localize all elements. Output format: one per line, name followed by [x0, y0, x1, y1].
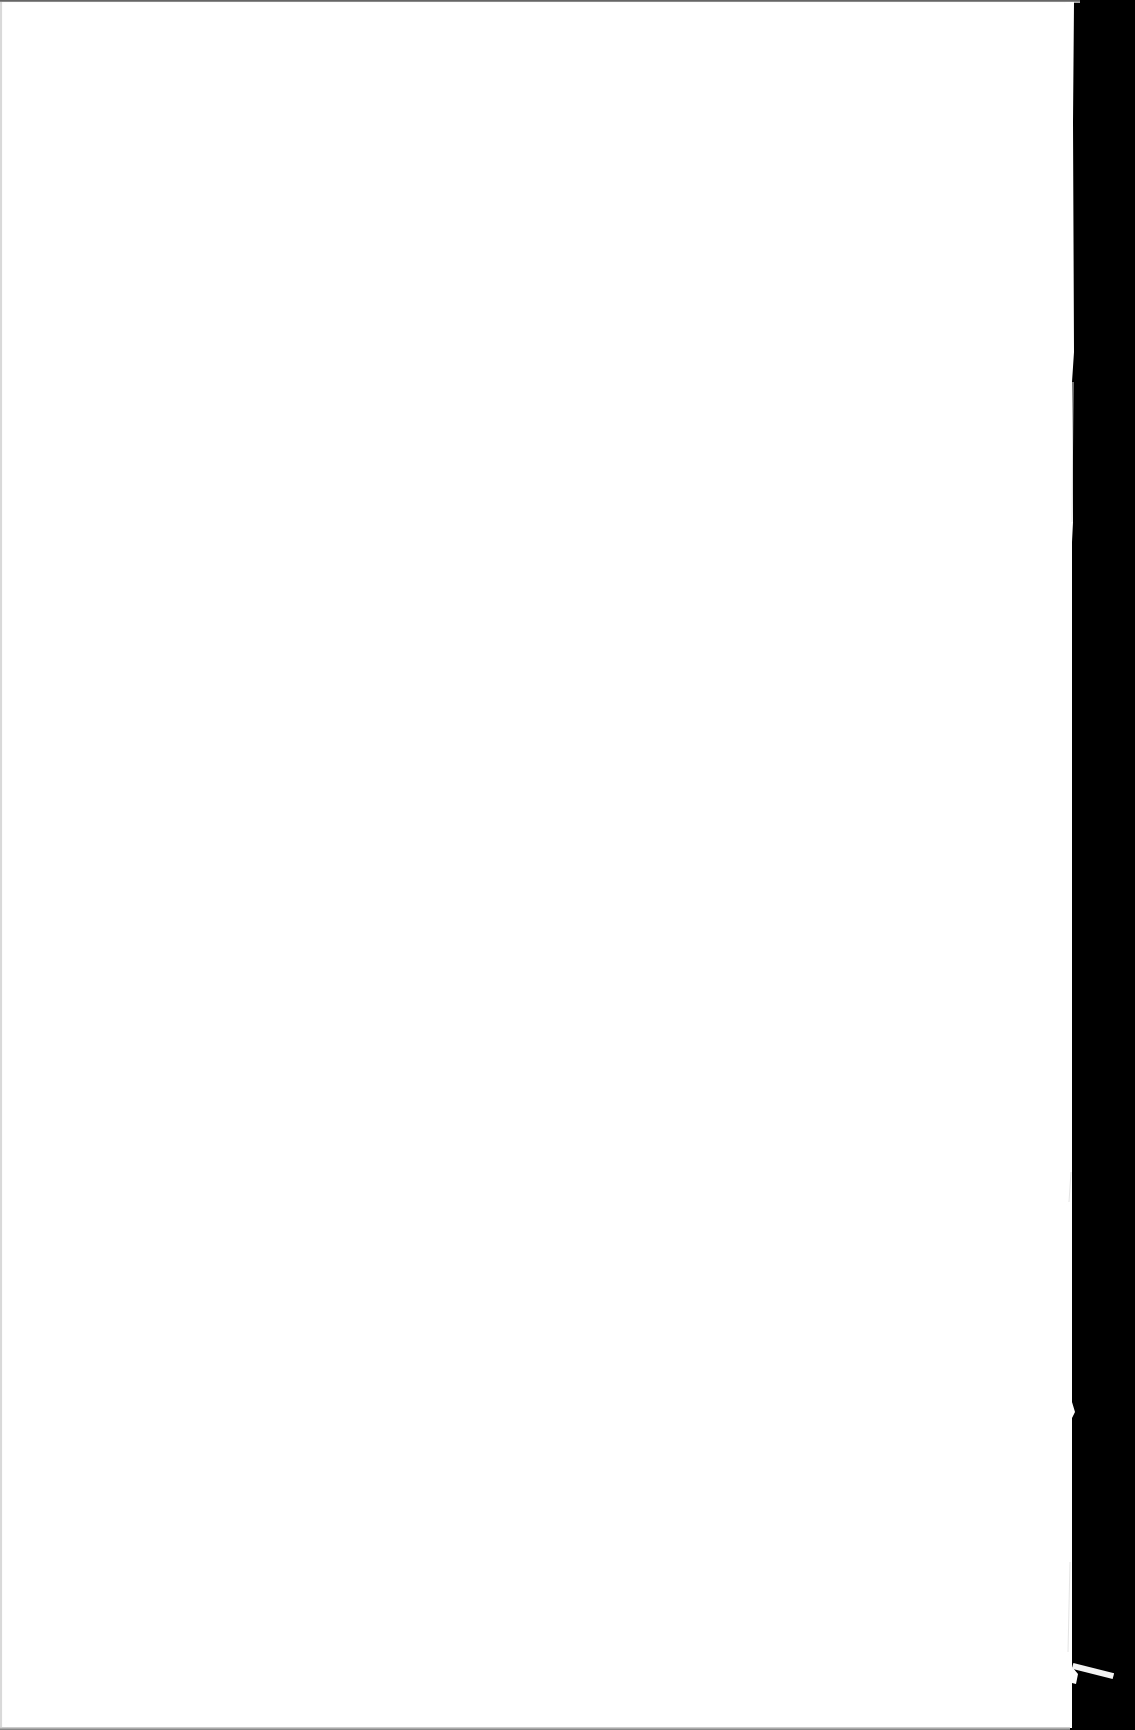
scanned-page-background: [0, 0, 1135, 1730]
torn-right-edge: [1066, 2, 1080, 1728]
paper-left-edge: [0, 2, 2, 1728]
blank-paper-sheet: [0, 2, 1072, 1728]
